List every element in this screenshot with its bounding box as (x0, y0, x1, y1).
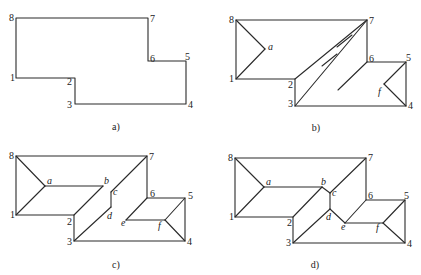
vertex-label: 4 (408, 100, 413, 111)
vertex-label: 3 (67, 99, 72, 110)
roof-line (345, 200, 366, 223)
vertex-label: 8 (229, 14, 234, 25)
vertex-label: 1 (229, 211, 234, 222)
vertex-label: 5 (188, 190, 193, 201)
panel-caption: d) (311, 259, 319, 271)
point-label: a (266, 176, 271, 187)
vertex-label: 3 (67, 236, 72, 247)
point-label: f (378, 86, 382, 97)
vertex-label: 2 (67, 76, 72, 87)
vertex-label: 7 (368, 152, 373, 163)
roof-line (74, 186, 103, 215)
roof-line (293, 187, 322, 217)
point-label: e (121, 217, 126, 228)
vertex-label: 6 (150, 188, 155, 199)
vertex-label: 7 (150, 13, 155, 24)
panel-d: 87654321abcdefd) (228, 152, 412, 271)
roof-line (74, 207, 111, 241)
roof-line (383, 200, 405, 223)
vertex-label: 6 (368, 190, 373, 201)
vertex-label: 7 (369, 15, 374, 26)
vertex-label: 6 (150, 53, 155, 64)
point-label: d (107, 210, 113, 221)
roof-line (295, 20, 367, 106)
vertex-label: 5 (406, 52, 411, 63)
vertex-label: 4 (407, 238, 412, 249)
vertex-label: 5 (404, 190, 409, 201)
vertex-label: 2 (288, 79, 293, 90)
point-label: a (268, 41, 273, 52)
panel-a: 87654321a) (9, 12, 193, 133)
roof-line (16, 156, 45, 186)
vertex-label: 5 (185, 51, 190, 62)
roof-line (293, 209, 330, 243)
panel-c: 87654321abcdefc) (9, 150, 193, 271)
roof-plan-figure: 87654321a)87654321afb)87654321abcdefc)87… (0, 0, 421, 275)
point-label: d (326, 211, 332, 222)
roof-line (338, 62, 367, 90)
vertex-label: 7 (149, 151, 154, 162)
roof-line (235, 187, 264, 217)
vertex-label: 6 (369, 53, 374, 64)
vertex-label: 8 (9, 12, 14, 23)
vertex-label: 8 (9, 150, 14, 161)
panel-caption: b) (312, 122, 320, 134)
roof-line (235, 158, 264, 187)
roof-line (16, 186, 45, 215)
building-outline (235, 158, 405, 243)
point-label: c (113, 186, 118, 197)
roof-line (126, 198, 147, 220)
roof-line (165, 220, 185, 241)
vertex-label: 1 (10, 209, 15, 220)
vertex-label: 1 (10, 72, 15, 83)
point-label: a (47, 175, 52, 186)
vertex-label: 8 (228, 152, 233, 163)
panel-caption: a) (112, 121, 120, 133)
roof-line (165, 198, 185, 220)
roof-line (236, 49, 265, 79)
building-outline (16, 18, 186, 104)
panel-caption: c) (112, 259, 120, 271)
vertex-label: 4 (188, 99, 193, 110)
roof-line (384, 84, 406, 106)
point-label: f (376, 222, 380, 233)
point-label: e (341, 221, 346, 232)
roof-line (236, 20, 265, 49)
point-label: c (332, 187, 337, 198)
point-label: f (158, 220, 162, 231)
panel-b: 87654321afb) (229, 14, 413, 134)
vertex-label: 2 (287, 217, 292, 228)
vertex-label: 3 (288, 98, 293, 109)
vertex-label: 2 (67, 216, 72, 227)
roof-line (383, 223, 405, 243)
vertex-label: 4 (187, 236, 192, 247)
vertex-label: 1 (229, 73, 234, 84)
roof-line (295, 20, 367, 79)
roof-line (322, 187, 330, 193)
point-label: b (321, 176, 326, 187)
roof-line (384, 62, 406, 84)
vertex-label: 3 (286, 237, 291, 248)
point-label: b (104, 175, 109, 186)
